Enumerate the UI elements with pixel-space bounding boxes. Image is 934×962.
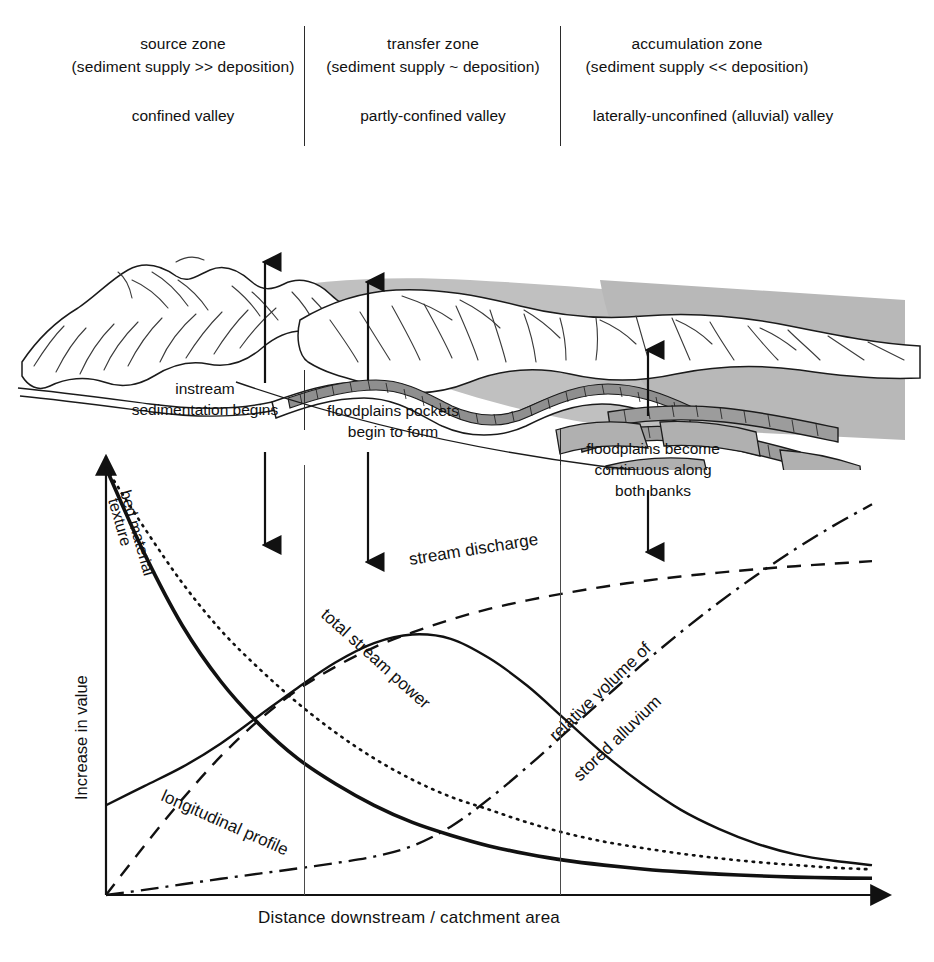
curve-label-total-stream-power: total stream power xyxy=(317,605,434,713)
chart-zone-divider-1 xyxy=(304,465,305,895)
curve-label-stream-discharge: stream discharge xyxy=(408,530,540,569)
curve-label-longitudinal-profile: longitudinal profile xyxy=(158,786,291,859)
chart-series-relative-volume-of-stored-alluvium xyxy=(106,504,872,895)
chart-series-bed-material-texture xyxy=(106,468,872,869)
x-axis-label: Distance downstream / catchment area xyxy=(258,908,560,928)
downstream-trends-chart: bed materialtexturestream dischargetotal… xyxy=(0,0,934,962)
chart-zone-divider-2 xyxy=(560,465,561,895)
y-axis-label: Increase in value xyxy=(72,675,91,800)
